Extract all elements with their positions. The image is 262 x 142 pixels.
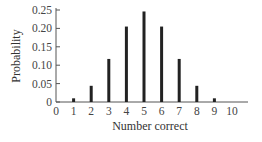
bar [143,11,146,102]
bars [72,11,216,102]
x-tick-label: 10 [226,105,238,117]
x-tick-label: 5 [141,105,147,117]
bar [178,59,181,102]
y-tick-label: 0 [46,96,52,108]
y-tick-label: 0.20 [32,22,52,34]
x-axis-title: Number correct [112,119,188,133]
bar [160,27,163,102]
bar [107,59,110,102]
bar [125,27,128,102]
y-tick-label: 0.05 [32,78,52,90]
bar [72,98,75,102]
bar [213,98,216,102]
y-tick-label: 0.25 [32,4,52,16]
x-tick-label: 4 [124,105,130,117]
bar [90,86,93,102]
y-axis-title: Probability [9,29,23,82]
x-axis: 012345678910 [53,102,248,117]
x-tick-label: 3 [106,105,112,117]
x-tick-label: 6 [159,105,165,117]
x-tick-label: 7 [176,105,182,117]
x-tick-label: 0 [53,105,59,117]
y-tick-label: 0.10 [32,59,52,71]
bar-chart: 00.050.100.150.200.25 012345678910 Proba… [0,0,262,142]
x-tick-label: 8 [194,105,200,117]
y-axis: 00.050.100.150.200.25 [32,4,60,108]
y-tick-label: 0.15 [32,41,52,53]
x-tick-label: 1 [71,105,77,117]
x-tick-label: 2 [88,105,94,117]
x-tick-label: 9 [212,105,218,117]
bar [195,86,198,102]
